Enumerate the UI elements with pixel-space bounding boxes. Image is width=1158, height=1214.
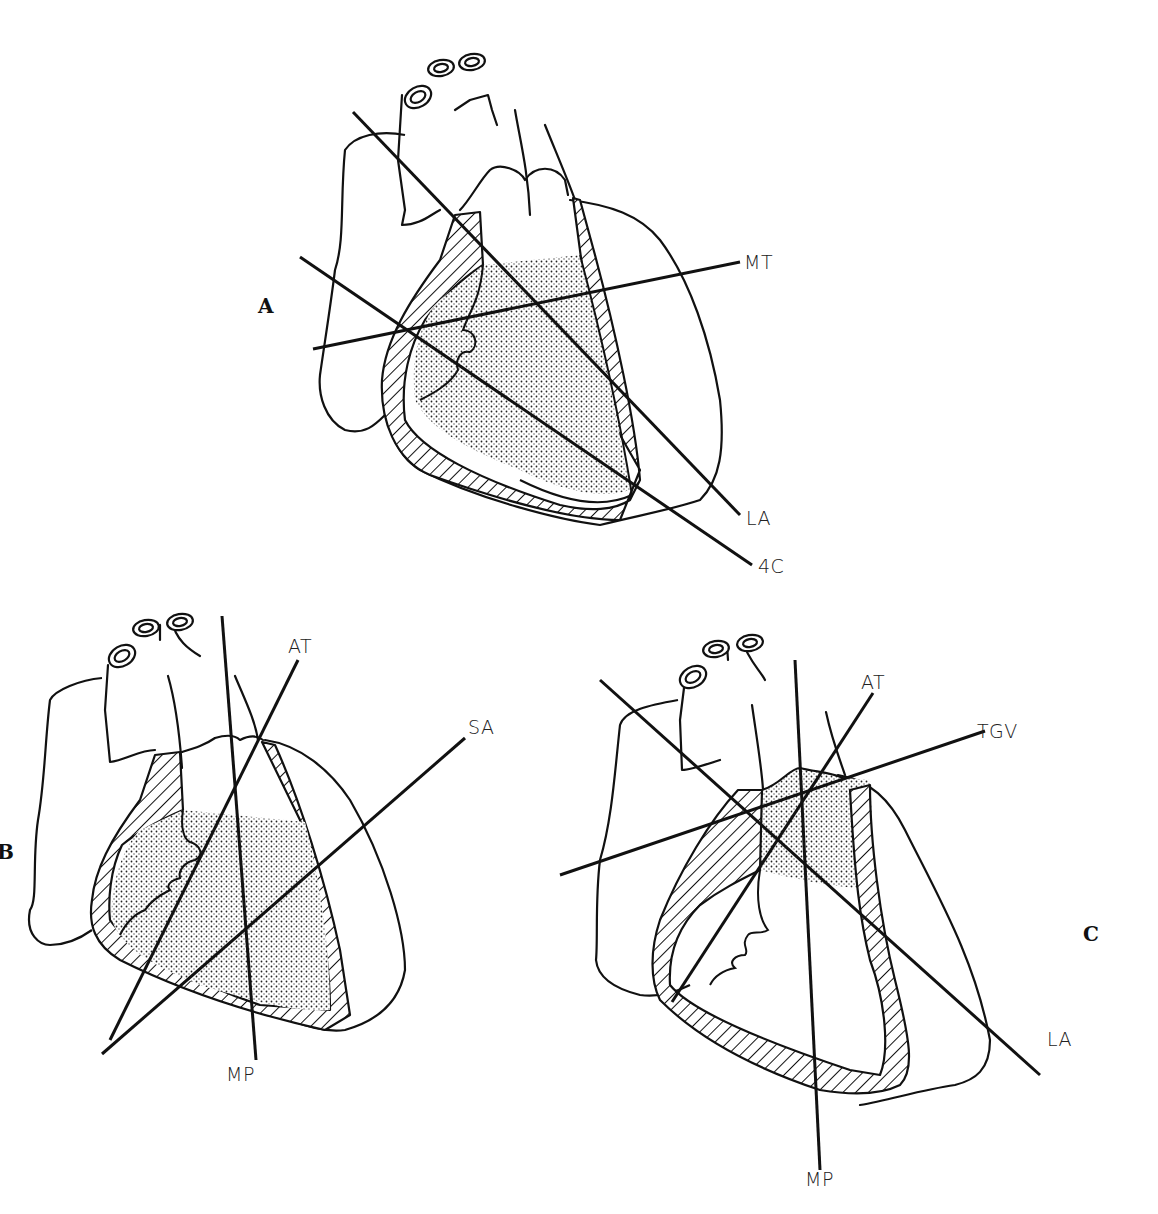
panel-label-a: A (258, 294, 274, 318)
vessel-ring-2 (702, 639, 730, 659)
plane-label-c-at: AT (861, 671, 885, 693)
vessel-ring-2 (427, 58, 455, 78)
panel-label-b: B (0, 840, 14, 864)
plane-label-a-la: LA (746, 507, 771, 529)
vessel-ring-2 (132, 618, 160, 638)
plane-label-a-mt: MT (744, 251, 773, 273)
plane-label-b-sa: SA (468, 716, 494, 738)
heart-planes-diagram (0, 0, 1158, 1214)
plane-label-a-4c: 4C (758, 555, 784, 577)
vessel-ring-3 (736, 633, 764, 653)
plane-label-c-tgv: TGV (977, 720, 1018, 742)
vessel-ring-3 (166, 612, 194, 632)
plane-c-mp-line (795, 660, 820, 1170)
plane-label-b-mp: MP (226, 1063, 255, 1085)
panel-c-heart (596, 633, 990, 1105)
great-vessels (398, 95, 575, 225)
vessel-ring-1 (105, 640, 139, 671)
great-vessels (105, 620, 258, 768)
vessel-ring-3 (458, 52, 486, 72)
vessel-ring-1 (401, 81, 435, 112)
plane-label-c-la: LA (1047, 1028, 1072, 1050)
plane-label-c-mp: MP (805, 1168, 834, 1190)
panel-label-c: C (1083, 922, 1099, 946)
great-vessels (680, 640, 845, 790)
vessel-ring-1 (676, 661, 710, 692)
plane-label-b-at: AT (288, 635, 312, 657)
